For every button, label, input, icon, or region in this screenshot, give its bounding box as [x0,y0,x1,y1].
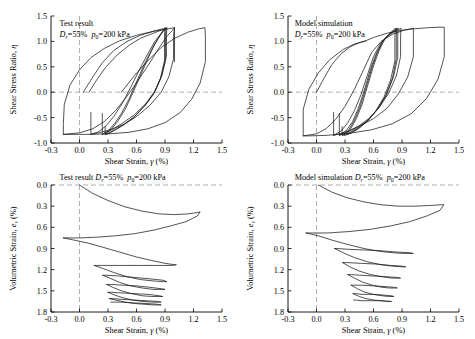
y-tick-label: 1.5 [37,12,47,21]
y-tick-label: 0.3 [274,202,284,211]
x-tick-label: 0.3 [103,315,113,324]
annotation-title-parameters: Test result Dr=55% p0=200 kPa [60,173,166,183]
annotation-parameters: Dr=55% p0=200 kPa [294,30,366,40]
y-tick-label: 0.5 [37,63,47,72]
x-tick-label: 0.3 [103,146,113,155]
panel-model-volumetric: -0.30.00.30.60.91.21.50.00.30.60.91.21.5… [237,169,475,339]
panel-test-stress-strain: -0.30.00.30.60.91.21.51.51.00.50.0-0.5-1… [0,0,238,170]
data-curve [306,185,444,233]
x-tick-label: 0.9 [397,315,407,324]
y-tick-label: 1.5 [37,287,47,296]
y-tick-label: -1.0 [34,139,47,148]
y-tick-label: 0.6 [37,223,47,232]
y-axis-title: Shear Stress Ratio, η [246,45,255,115]
y-axis-title: Shear Stress Ratio, η [9,45,18,115]
x-tick-label: 1.5 [454,315,464,324]
x-tick-label: 0.6 [368,315,378,324]
x-axis-title: Shear Strain, γ (%) [342,157,406,166]
x-tick-label: 0.9 [160,315,170,324]
panel-test-volumetric: -0.30.00.30.60.91.21.50.00.30.60.91.21.5… [0,169,238,339]
x-tick-label: 0.6 [131,315,141,324]
chart-model-volumetric: -0.30.00.30.60.91.21.50.00.30.60.91.21.5… [237,169,475,339]
annotation-title-parameters: Model simulation Dr=55% p0=200 kPa [295,173,426,183]
data-curve [303,28,413,136]
y-tick-label: 0.0 [274,88,284,97]
x-tick-label: 1.2 [425,315,435,324]
y-tick-label: 0.0 [274,181,284,190]
data-curve [63,185,200,238]
y-tick-label: -1.0 [271,139,284,148]
x-axis-title: Shear Strain, γ (%) [105,157,169,166]
y-tick-label: 0.6 [274,223,284,232]
x-tick-label: 1.2 [188,146,198,155]
y-tick-label: 1.8 [274,308,284,317]
x-tick-label: 1.5 [454,146,464,155]
data-curve [344,28,395,135]
x-tick-label: 1.5 [217,146,227,155]
y-tick-label: 1.5 [274,12,284,21]
panel-model-stress-strain: -0.30.00.30.60.91.21.51.51.00.50.0-0.5-1… [237,0,475,170]
chart-model-stress-strain: -0.30.00.30.60.91.21.51.51.00.50.0-0.5-1… [237,0,475,170]
data-curve [343,263,401,279]
y-tick-label: 0.9 [37,245,47,254]
x-axis-title: Shear Strain, γ (%) [105,326,169,335]
y-tick-label: 0.5 [274,63,284,72]
x-tick-label: 0.6 [368,146,378,155]
y-tick-label: 0.0 [37,88,47,97]
chart-test-stress-strain: -0.30.00.30.60.91.21.51.51.00.50.0-0.5-1… [0,0,238,170]
data-curve [63,238,176,266]
y-tick-label: 0.3 [37,202,47,211]
chart-test-volumetric: -0.30.00.30.60.91.21.50.00.30.60.91.21.5… [0,169,238,339]
y-tick-label: 1.2 [37,266,47,275]
axis-spines [51,185,222,312]
x-axis-title: Shear Strain, γ (%) [342,326,406,335]
data-curve [306,233,413,253]
annotation-parameters: Dr=55% p0=200 kPa [59,30,131,40]
x-tick-label: 0.0 [311,146,321,155]
data-curve [63,28,174,135]
y-tick-label: 0.0 [37,181,47,190]
y-tick-label: 1.5 [274,287,284,296]
data-curve [63,28,205,135]
x-tick-label: 1.2 [188,315,198,324]
x-tick-label: 0.9 [397,146,407,155]
data-curve [353,294,391,302]
x-tick-label: 0.0 [311,315,321,324]
axis-spines [288,185,459,312]
y-tick-label: 1.2 [274,266,284,275]
y-tick-label: 1.8 [37,308,47,317]
x-tick-label: 0.0 [74,146,84,155]
y-axis-title: Volumetric Strain, ev (%) [9,206,19,291]
x-tick-label: 0.9 [160,146,170,155]
annotation-title: Test result [60,19,94,28]
x-tick-label: 0.3 [340,315,350,324]
y-tick-label: -0.5 [34,114,47,123]
x-tick-label: 1.5 [217,315,227,324]
figure-root: -0.30.00.30.60.91.21.51.51.00.50.0-0.5-1… [0,0,475,339]
y-tick-label: 1.0 [37,37,47,46]
x-tick-label: 0.0 [74,315,84,324]
x-tick-label: 1.2 [425,146,435,155]
y-tick-label: 0.9 [274,245,284,254]
y-tick-label: -0.5 [271,114,284,123]
y-tick-label: 1.0 [274,37,284,46]
y-axis-title: Volumetric Strain, ev (%) [246,206,256,291]
annotation-title: Model simulation [295,19,353,28]
data-curve [94,265,167,281]
x-tick-label: 0.6 [131,146,141,155]
x-tick-label: 0.3 [340,146,350,155]
data-curve [303,27,444,136]
